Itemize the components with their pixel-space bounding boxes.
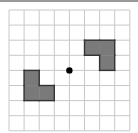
center-point [66, 67, 72, 73]
shape-cell [85, 40, 100, 55]
shape-cell [39, 86, 54, 101]
left-l-shape [24, 70, 54, 101]
rotation-grid-diagram [0, 0, 138, 133]
shape-cell [100, 40, 115, 55]
right-l-shape [85, 40, 116, 70]
shape-cell [100, 55, 115, 70]
shape-cell [24, 86, 39, 101]
shape-cell [24, 70, 39, 85]
